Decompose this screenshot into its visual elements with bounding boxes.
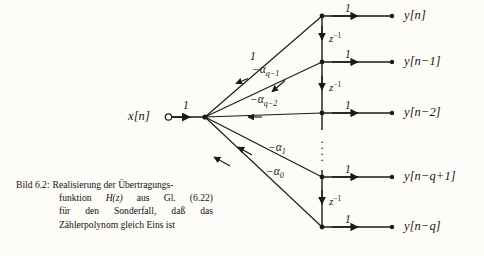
caption-word: daß [171,204,185,217]
coef-base: −α [252,63,266,75]
caption-math-hz: H(z) [106,191,123,204]
output-signal-4: y[n−q] [404,220,441,233]
delay-element-3: z−1 [329,196,341,207]
coef-sub: q−2 [264,99,277,108]
figure-signal-flow-graph: x[n] 1 1 −αq−1 −αq−2 −α1 −α0 z−1 z−1 z−1… [0,0,484,256]
output-signal-3: y[n−q+1] [404,170,456,183]
branch-coef-alpha-q-1: −αq−1 [252,64,279,76]
output-signal-0: y[n] [404,9,426,22]
output-gain-0: 1 [345,3,351,15]
caption-word: Sonderfall, [114,204,156,217]
output-gain-1: 1 [345,49,351,61]
output-gain-2: 1 [345,100,351,112]
output-gain-3: 1 [345,164,351,176]
delay-element-1: z−1 [329,33,341,44]
delay-exp: −1 [333,80,341,89]
caption-word: funktion [59,191,92,204]
branch-coef-alpha-0: −α0 [266,166,284,178]
delay-element-2: z−1 [329,82,341,93]
coef-base: −α [268,141,282,153]
coef-base: −α [266,165,280,177]
coef-sub: 1 [282,147,286,156]
caption-number: Bild 6.2: [16,179,50,190]
caption-word: (6.22) [190,191,213,204]
caption-text-1: Realisierung der Übertragungs- [53,179,174,190]
caption-word: für [59,204,70,217]
caption-line-3: fürdenSonderfall,daßdas [16,204,213,217]
coef-sub: q−1 [266,69,279,78]
input-gain-label: 1 [183,100,189,112]
caption-word: den [85,204,99,217]
input-branch [165,114,205,120]
caption-line-1: Bild 6.2:Realisierung der Übertragungs- [16,178,228,191]
coef-base: −α [250,93,264,105]
output-signal-2: y[n−2] [404,106,441,119]
input-signal-label: x[n] [128,110,150,123]
branch-gain-top: 1 [250,51,256,63]
branch-coef-alpha-q-2: −αq−2 [250,94,277,106]
ellipsis-dot: . [318,154,326,160]
branch-coef-alpha-1: −α1 [268,142,286,154]
caption-word: Gl. [164,191,176,204]
caption-word: das [200,204,213,217]
coef-sub: 0 [280,171,284,180]
figure-caption: Bild 6.2:Realisierung der Übertragungs- … [16,178,228,231]
output-signal-1: y[n−1] [404,55,441,68]
delay-exp: −1 [333,194,341,203]
delay-exp: −1 [333,31,341,40]
caption-line-4: Zählerpolynom gleich Eins ist [16,218,228,231]
caption-line-2: funktionH(z)ausGl.(6.22) [16,191,213,204]
vertical-ellipsis: . . . . [318,136,326,160]
output-gain-4: 1 [345,214,351,226]
caption-word: aus [137,191,150,204]
